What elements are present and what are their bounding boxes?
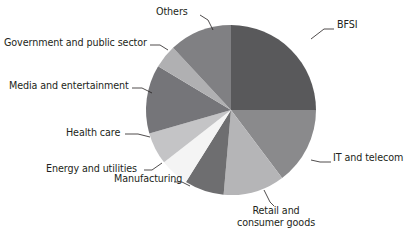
pie-slice-bfsi[interactable] — [231, 25, 316, 110]
pie-chart: BFSI IT and telecom Retail and consumer … — [0, 0, 406, 243]
pie-label-retail-line2: consumer goods — [237, 217, 315, 228]
leader-line-health-care — [125, 134, 150, 137]
pie-label-retail-line1: Retail and — [252, 205, 299, 216]
pie-label-others: Others — [156, 6, 188, 18]
pie-label-bfsi: BFSI — [337, 19, 357, 31]
pie-label-media-and-entertainment: Media and entertainment — [9, 80, 129, 92]
leader-line-retail-and-consumer-goods — [264, 190, 274, 206]
leader-line-government-and-public-sector — [150, 45, 168, 50]
pie-label-retail-and-consumer-goods: Retail and consumer goods — [228, 205, 324, 228]
leader-line-energy-and-utilities — [144, 163, 162, 170]
pie-slice-group — [146, 25, 316, 195]
pie-label-health-care: Health care — [66, 127, 120, 139]
pie-label-manufacturing: Manufacturing — [114, 173, 182, 185]
pie-label-government-and-public-sector: Government and public sector — [4, 37, 147, 49]
leader-line-bfsi — [311, 29, 334, 39]
leader-line-it-and-telecom — [311, 160, 331, 162]
pie-label-energy-and-utilities: Energy and utilities — [46, 163, 137, 175]
pie-label-it-and-telecom: IT and telecom — [333, 152, 403, 164]
